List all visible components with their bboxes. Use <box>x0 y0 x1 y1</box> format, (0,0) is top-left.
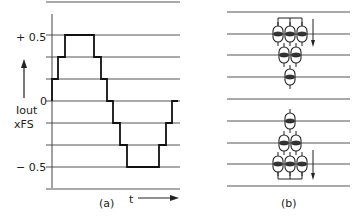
y-axis-label-xfs: xFS <box>14 118 34 131</box>
bottom-down-arrow-icon <box>311 150 315 180</box>
panel-a: + 0.5 0 − 0.5 Iout xFS (a) t <box>14 2 180 210</box>
y-axis-up-arrow-icon <box>21 59 27 98</box>
panel-b-caption: (b) <box>281 197 297 210</box>
charge-bucket-icon <box>285 65 295 89</box>
y-axis-label-iout: Iout <box>16 104 38 117</box>
tick-label-zero: 0 <box>40 95 47 108</box>
x-axis-right-arrow-icon <box>138 195 179 201</box>
panel-b: (b) <box>227 12 350 210</box>
panel-a-caption: (a) <box>99 197 114 210</box>
x-axis-label-t: t <box>129 193 134 206</box>
tick-label-plus-half: + 0.5 <box>16 31 46 44</box>
bottom-bracket <box>278 172 302 179</box>
top-down-arrow-icon <box>311 19 315 47</box>
charge-bucket-icon <box>291 43 301 67</box>
figure: + 0.5 0 − 0.5 Iout xFS (a) t (b <box>0 0 361 220</box>
charge-bucket-icon <box>285 109 295 133</box>
top-bracket <box>278 18 302 26</box>
tick-label-minus-half: − 0.5 <box>16 161 46 174</box>
charge-bucket-icon <box>279 43 289 67</box>
charge-bucket-icon <box>291 131 301 155</box>
charge-bucket-icon <box>279 131 289 155</box>
